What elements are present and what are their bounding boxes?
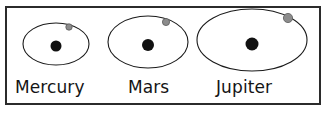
- central-body-mars: [142, 39, 154, 51]
- orbit-system-jupiter: [197, 9, 307, 71]
- orbiting-body-jupiter: [283, 13, 292, 22]
- system-label-mercury: Mercury: [15, 79, 85, 96]
- central-body-jupiter: [246, 38, 259, 51]
- system-label-jupiter: Jupiter: [216, 79, 272, 96]
- system-label-mars: Mars: [128, 79, 169, 96]
- orbiting-body-mars: [162, 18, 169, 25]
- orbit-comparison-figure: Mercury Mars Jupiter: [0, 0, 330, 116]
- orbit-diagram-canvas: [0, 0, 330, 116]
- central-body-mercury: [51, 41, 62, 52]
- orbit-system-mars: [108, 16, 188, 68]
- orbiting-body-mercury: [66, 24, 72, 30]
- orbit-system-mercury: [23, 23, 89, 65]
